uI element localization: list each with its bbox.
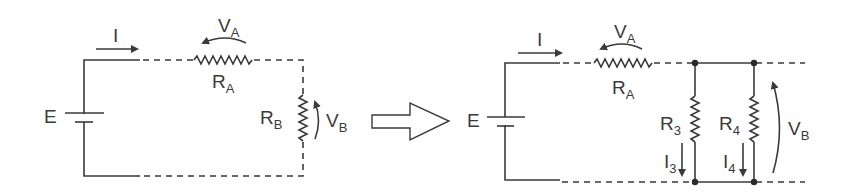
source-label: E: [467, 110, 480, 131]
resistor-b-icon: [299, 95, 307, 141]
current-4-label: I4: [723, 151, 736, 176]
node-dot: [692, 179, 698, 185]
circuit-diagram: E I VA RA RB VB E I: [0, 0, 849, 193]
voltage-a-label: VA: [614, 21, 636, 46]
battery-icon: [65, 113, 104, 122]
left-top-wire: [84, 60, 140, 114]
node-dot: [751, 179, 757, 185]
current-label: I: [113, 25, 118, 46]
right-circuit: E I VA RA R3 R4 I3: [467, 21, 809, 185]
source-label: E: [44, 106, 57, 127]
voltage-a-arrow-icon: [203, 38, 246, 43]
current-3-label: I3: [664, 151, 677, 176]
node-dot: [692, 60, 698, 66]
node-dot: [751, 60, 757, 66]
resistor-3-label: R3: [660, 113, 681, 138]
right-top-wire: [505, 63, 560, 117]
voltage-b-arrow-icon: [315, 102, 319, 139]
voltage-b-arrow-icon: [773, 83, 780, 173]
resistor-4-icon: [750, 96, 758, 142]
resistor-4-label: R4: [719, 113, 740, 138]
resistor-3-icon: [691, 96, 699, 142]
battery-icon: [487, 117, 525, 126]
transform-arrow-icon: [372, 103, 449, 140]
current-label: I: [537, 29, 542, 50]
right-bottom-wire: [505, 125, 560, 180]
resistor-a-label: RA: [612, 77, 635, 102]
left-circuit: E I VA RA RB VB: [44, 15, 347, 176]
resistor-a-icon: [594, 59, 652, 67]
voltage-b-label: VB: [326, 110, 347, 135]
voltage-a-label: VA: [218, 15, 240, 40]
resistor-a-label: RA: [212, 71, 235, 96]
resistor-b-label: RB: [260, 107, 282, 132]
voltage-b-label: VB: [788, 118, 809, 143]
left-bottom-wire: [84, 122, 140, 176]
voltage-a-arrow-icon: [601, 44, 642, 49]
resistor-a-icon: [194, 56, 252, 64]
